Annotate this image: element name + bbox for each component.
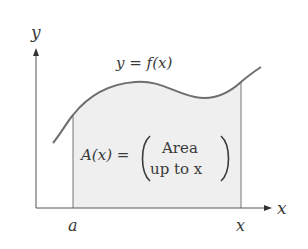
lower-bound-label: a — [68, 216, 78, 235]
shaded-area-region — [73, 82, 241, 208]
area-function-diagram: y x y = f(x) a x A(x) = Area up to x — [0, 0, 308, 249]
y-axis-label: y — [30, 22, 41, 42]
upper-bound-label: x — [236, 216, 245, 235]
area-formula-rhs-line1: Area — [161, 139, 198, 157]
curve-label: y = f(x) — [115, 54, 172, 72]
area-formula-rhs-line2: up to x — [150, 160, 203, 178]
x-axis-label: x — [277, 198, 287, 218]
area-formula-lhs: A(x) = — [79, 146, 129, 164]
